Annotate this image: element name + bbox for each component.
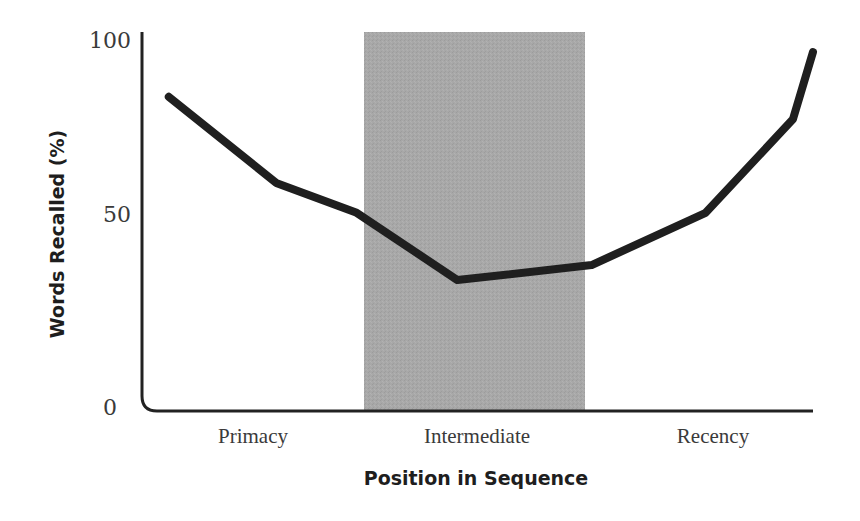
y-tick-0: 0 — [103, 395, 117, 420]
y-tick-100: 100 — [89, 28, 131, 53]
y-tick-50: 50 — [103, 202, 131, 227]
category-label-primacy: Primacy — [218, 424, 288, 448]
x-axis-title: Position in Sequence — [364, 467, 589, 489]
y-axis-title: Words Recalled (%) — [46, 130, 68, 338]
category-label-recency: Recency — [677, 424, 750, 448]
intermediate-shaded-region — [364, 32, 585, 411]
category-label-intermediate: Intermediate — [424, 424, 530, 448]
serial-position-chart: 100 50 0 Primacy Intermediate Recency Po… — [0, 0, 860, 521]
